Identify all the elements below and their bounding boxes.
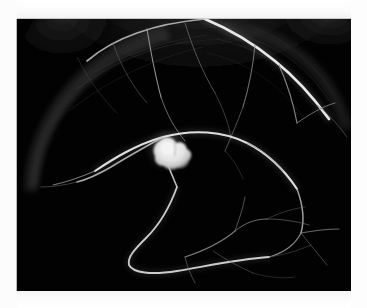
figure-margin-top [0, 0, 367, 19]
image-grain [17, 19, 351, 291]
figure-margin-left [0, 0, 17, 308]
photo-plate [17, 19, 351, 291]
figure-margin-bottom [0, 291, 367, 308]
figure-root: Fluorescence vascular network image Dark… [0, 0, 367, 308]
vascular-image-canvas [17, 19, 351, 291]
figure-margin-right [351, 0, 367, 308]
